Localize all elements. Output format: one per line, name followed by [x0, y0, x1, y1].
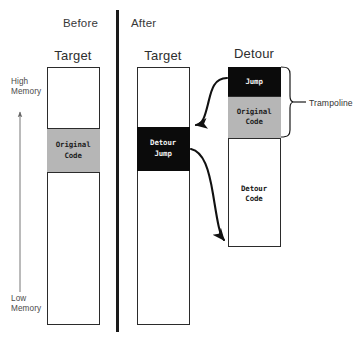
arrow-jump-to-target — [196, 78, 227, 125]
after-detour-jump-block: Detour Jump — [137, 127, 190, 171]
detour-original-code-label: Original Code — [228, 107, 281, 128]
detour-code-label: Detour Code — [229, 184, 279, 205]
column-title-after-target: Target — [117, 49, 209, 62]
column-title-detour: Detour — [208, 47, 300, 60]
detour-code-block: Detour Code — [229, 139, 279, 247]
before-original-code-label: Original Code — [47, 140, 100, 161]
low-memory-label: Low Memory — [11, 294, 41, 315]
before-target-column: Original Code — [47, 67, 100, 325]
detour-jump-label: Jump — [228, 77, 281, 88]
after-target-column: Detour Jump — [137, 67, 190, 325]
section-title-before: Before — [63, 18, 98, 30]
high-memory-label: High Memory — [11, 77, 41, 98]
trampoline-label: Trampoline — [309, 99, 353, 108]
column-title-before-target: Target — [27, 49, 119, 62]
trampoline-bracket — [281, 67, 306, 137]
arrow-target-to-detour-code — [191, 149, 224, 240]
after-detour-jump-label: Detour Jump — [137, 138, 190, 159]
detour-original-code-block: Original Code — [228, 96, 281, 139]
before-original-code-block: Original Code — [47, 128, 100, 173]
section-title-after: After — [131, 18, 156, 30]
detour-column: Jump Original Code Detour Code — [228, 67, 281, 247]
detour-memory-diagram: Before After High Memory Low Memory Targ… — [0, 0, 363, 342]
detour-jump-block: Jump — [228, 67, 281, 96]
